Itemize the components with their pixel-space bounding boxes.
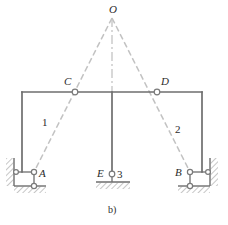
joint-B xyxy=(187,169,192,174)
node-label-B: B xyxy=(175,167,182,178)
joint-C xyxy=(72,89,78,95)
figure-caption: b) xyxy=(108,205,116,215)
joint-D xyxy=(154,89,160,95)
support-B xyxy=(178,158,218,193)
joint-A xyxy=(31,169,36,174)
node-label-C: C xyxy=(64,76,71,87)
diagram-canvas xyxy=(0,0,228,225)
member-label-3: 3 xyxy=(117,169,123,180)
member-label-1: 1 xyxy=(42,117,48,128)
node-label-A: A xyxy=(39,168,46,179)
node-label-D: D xyxy=(161,76,169,87)
node-label-O: O xyxy=(109,4,117,15)
member-label-2: 2 xyxy=(175,124,181,135)
figure-b-truss-diagram: O C D A B E 1 2 3 b) xyxy=(0,0,228,225)
node-label-E: E xyxy=(97,168,104,179)
